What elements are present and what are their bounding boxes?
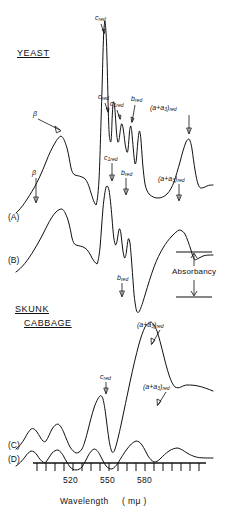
peak-label-aa3-C: (a+a3)red — [137, 321, 164, 329]
peak-sub-red: red — [102, 95, 109, 101]
peak-sub-red: red — [121, 276, 128, 282]
peak-label-b-D: bred — [117, 274, 128, 282]
peak-label-aa3-B: (a+a3)red — [158, 175, 185, 183]
panel-label-yeast: YEAST — [17, 49, 50, 58]
aa3-base: (a+a — [137, 321, 151, 328]
aa3-sub-red: red — [169, 106, 176, 112]
peak-label-aa3-A: (a+a3)red — [150, 104, 177, 112]
panel-label-cabbage: CABBAGE — [24, 319, 72, 328]
trace-id-B: (B) — [8, 256, 19, 265]
peak-label-c-A: cred — [98, 93, 109, 101]
aa3-sub-red: red — [156, 323, 163, 329]
trace-id-A: (A) — [8, 213, 19, 222]
trace-curve-B — [16, 186, 213, 313]
peak-sub-red: red — [99, 16, 106, 22]
aa3-sub-red: red — [177, 177, 184, 183]
peak-sub-red: red — [104, 375, 111, 381]
absorbancy-label: Absorbancy — [172, 268, 216, 276]
x-tick-label-580: 580 — [137, 476, 152, 485]
trace-curve-C — [16, 322, 213, 453]
aa3-base: (a+a — [158, 175, 172, 182]
spectra-plot-svg — [0, 0, 231, 517]
panel-label-skunk: SKUNK — [15, 305, 49, 314]
trace-id-C: (C) — [8, 441, 20, 450]
peak-sub-red: red — [135, 97, 142, 103]
x-tick-label-520: 520 — [63, 476, 78, 485]
peak-sub-red: red — [110, 156, 117, 162]
aa3-base: (a+a — [143, 383, 157, 390]
peak-label-aa3-D: (a+a3)red — [143, 383, 170, 391]
aa3-base: (a+a — [150, 104, 164, 111]
peak-label-c-red-A: cred — [95, 14, 106, 22]
peak-label-b-A: bred — [131, 95, 142, 103]
peak-label-c-C: cred — [100, 373, 111, 381]
peak-label-b-B: bred — [121, 169, 132, 177]
peak-label-c1-B: c1red — [104, 154, 118, 162]
aa3-sub-red: red — [162, 385, 169, 391]
peak-sub-red: red — [116, 102, 123, 108]
spectra-figure: YEAST SKUNK CABBAGE (A) (B) (C) (D) Abso… — [0, 0, 231, 517]
peak-label-beta-B: β — [32, 169, 36, 176]
x-axis-ticks — [37, 463, 199, 471]
trace-id-D: (D) — [8, 455, 20, 464]
peak-label-beta-A: β — [33, 110, 37, 117]
peak-sub-red: red — [125, 171, 132, 177]
x-axis-title: Wavelength — [60, 497, 109, 506]
peak-pointer-arrows — [34, 24, 192, 406]
x-axis-units: ( mμ ) — [122, 497, 147, 506]
x-tick-label-550: 550 — [100, 476, 115, 485]
peak-label-c1-A: c1red — [110, 100, 124, 108]
